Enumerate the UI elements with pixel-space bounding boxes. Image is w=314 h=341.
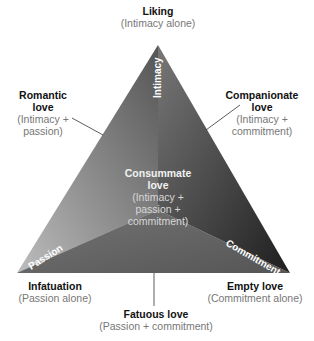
companionate-sub-2: commitment) — [215, 125, 309, 137]
consummate-title-1: Consummate — [113, 167, 203, 179]
romantic-sub-2: passion) — [8, 125, 78, 137]
vertex-empty-love: Empty love (Commitment alone) — [200, 280, 310, 304]
vertex-liking: Liking (Intimacy alone) — [108, 5, 208, 29]
side-romantic-love: Romantic love (Intimacy + passion) — [8, 89, 78, 137]
liking-title: Liking — [108, 5, 208, 17]
romantic-title-1: Romantic — [8, 89, 78, 101]
empty-love-title: Empty love — [200, 280, 310, 292]
romantic-sub-1: (Intimacy + — [8, 113, 78, 125]
liking-subtitle: (Intimacy alone) — [108, 17, 208, 29]
side-companionate-love: Companionate love (Intimacy + commitment… — [215, 89, 309, 137]
side-fatuous-love: Fatuous love (Passion + commitment) — [86, 308, 226, 332]
consummate-sub-2: passion + — [113, 203, 203, 215]
companionate-title-1: Companionate — [215, 89, 309, 101]
vertex-infatuation: Infatuation (Passion alone) — [10, 280, 100, 304]
companionate-sub-1: (Intimacy + — [215, 113, 309, 125]
companionate-title-2: love — [215, 101, 309, 113]
consummate-title-2: love — [113, 179, 203, 191]
empty-love-subtitle: (Commitment alone) — [200, 292, 310, 304]
consummate-sub-1: (Intimacy + — [113, 191, 203, 203]
infatuation-title: Infatuation — [10, 280, 100, 292]
fatuous-subtitle: (Passion + commitment) — [86, 320, 226, 332]
axis-label-intimacy: Intimacy — [152, 57, 163, 98]
fatuous-title: Fatuous love — [86, 308, 226, 320]
consummate-sub-3: commitment) — [113, 215, 203, 227]
center-consummate-love: Consummate love (Intimacy + passion + co… — [113, 167, 203, 227]
romantic-title-2: love — [8, 101, 78, 113]
infatuation-subtitle: (Passion alone) — [10, 292, 100, 304]
